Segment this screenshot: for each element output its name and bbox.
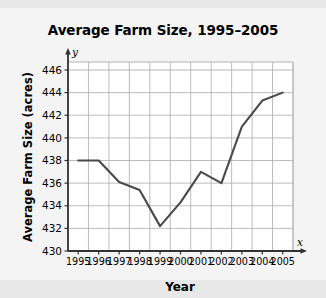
x-axis-title: Year [60,280,300,294]
line-chart-plot: 430432434436438440442444446 199519961997… [0,8,326,280]
y-tick-label: 434 [42,199,62,211]
y-tick-labels: 430432434436438440442444446 [42,64,62,257]
y-tick-label: 436 [42,177,62,189]
chart-figure: Average Farm Size, 1995–2005 Average Far… [0,8,326,280]
y-axis-letter: y [71,46,79,58]
y-tick-label: 440 [42,132,62,144]
plot-background [68,62,293,251]
y-tick-label: 444 [42,86,62,98]
y-tick-label: 438 [42,154,62,166]
y-tick-label: 430 [42,245,62,257]
x-axis-letter: x [297,236,303,248]
x-tick-labels: 1995199619971998199920002001200220032004… [66,256,295,267]
y-tick-label: 442 [42,109,62,121]
y-tick-label: 432 [42,222,62,234]
x-tick-label: 2005 [271,256,295,267]
y-tick-label: 446 [42,64,62,76]
